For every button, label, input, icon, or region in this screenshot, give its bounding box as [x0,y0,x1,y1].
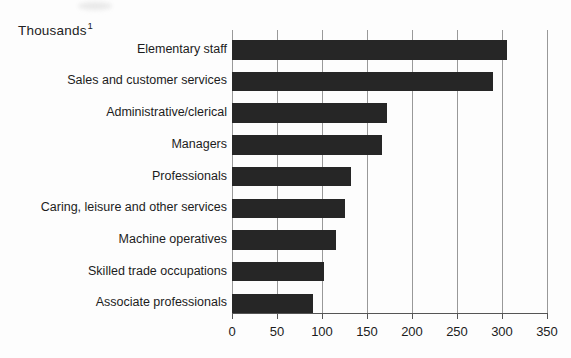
gridline-x-300 [502,30,503,313]
axis-tick-300 [502,314,503,319]
category-label: Managers [0,137,227,151]
x-tick-label-350: 350 [525,324,569,339]
axis-tick-350 [547,314,548,319]
bar-professionals [232,167,351,187]
x-tick-label-100: 100 [300,324,344,339]
bar-associate-professionals [232,294,313,314]
x-tick-label-250: 250 [435,324,479,339]
axis-tick-200 [412,314,413,319]
category-label: Machine operatives [0,232,227,246]
axis-tick-100 [322,314,323,319]
category-label: Caring, leisure and other services [0,200,227,214]
chart-unit-text: Thousands [18,23,87,38]
category-label: Elementary staff [0,42,227,56]
axis-tick-150 [367,314,368,319]
scan-artifact [78,2,112,10]
bar-skilled-trade-occupations [232,262,324,282]
bar-chart: Thousands1 050100150200250300350Elementa… [0,0,571,358]
axis-tick-0 [232,314,233,319]
category-label: Professionals [0,169,227,183]
category-label: Sales and customer services [0,73,227,87]
bar-administrative-clerical [232,103,387,123]
x-tick-label-0: 0 [210,324,254,339]
x-tick-label-150: 150 [345,324,389,339]
chart-unit-label: Thousands1 [18,20,93,38]
footnote-marker: 1 [88,20,93,31]
bar-caring-leisure-and-other-services [232,199,345,219]
bar-machine-operatives [232,230,336,250]
x-tick-label-50: 50 [255,324,299,339]
gridline-x-350 [547,30,548,313]
bar-sales-and-customer-services [232,72,493,92]
axis-tick-250 [457,314,458,319]
x-tick-label-300: 300 [480,324,524,339]
category-label: Skilled trade occupations [0,264,227,278]
axis-tick-50 [277,314,278,319]
x-axis-line [232,313,548,314]
x-tick-label-200: 200 [390,324,434,339]
bar-elementary-staff [232,40,507,60]
bar-managers [232,135,382,155]
category-label: Associate professionals [0,295,227,309]
category-label: Administrative/clerical [0,105,227,119]
